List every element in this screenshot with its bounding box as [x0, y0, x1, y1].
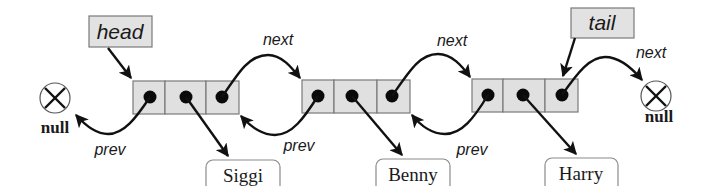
next-label-3: next	[636, 44, 667, 61]
null-left: null	[40, 83, 70, 137]
null-right: null	[641, 81, 673, 126]
tail-pointer: tail	[563, 8, 634, 76]
head-pointer: head	[89, 16, 152, 78]
prev-label-3: prev	[455, 141, 488, 158]
data-value-3: Harry	[559, 163, 604, 184]
data-box-1: Siggi	[206, 160, 280, 186]
null-label-right: null	[645, 107, 674, 126]
null-label-left: null	[41, 118, 70, 137]
tail-arrow	[563, 38, 575, 76]
head-label: head	[97, 20, 145, 43]
data-box-3: Harry	[545, 158, 618, 186]
head-arrow	[108, 48, 131, 78]
data-value-2: Benny	[388, 164, 438, 185]
data-box-2: Benny	[376, 159, 450, 186]
prev-label-1: prev	[93, 141, 126, 158]
doubly-linked-list-diagram: head tail null null	[0, 0, 728, 186]
data-value-1: Siggi	[223, 165, 263, 186]
tail-label: tail	[589, 11, 617, 34]
next-label-2: next	[437, 32, 468, 49]
next-label-1: next	[263, 31, 294, 48]
prev-label-2: prev	[282, 137, 315, 154]
